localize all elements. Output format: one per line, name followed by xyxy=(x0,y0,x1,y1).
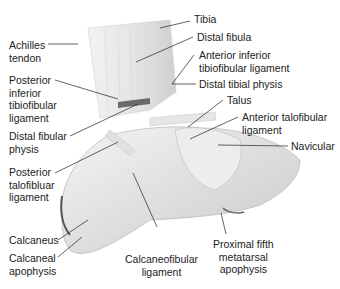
label-line: inferior xyxy=(9,87,57,100)
label-distal-fibula: Distal fibula xyxy=(197,31,251,44)
label-calcaneal-apophysis: Calcaneal apophysis xyxy=(9,252,56,277)
label-line: Anterior inferior xyxy=(199,49,289,62)
label-line: metatarsal xyxy=(213,251,274,264)
label-line: Proximal fifth xyxy=(213,238,274,251)
label-line: ligament xyxy=(9,191,55,204)
label-line: physis xyxy=(9,143,67,156)
label-line: Calcaneal xyxy=(9,252,56,265)
label-talus: Talus xyxy=(227,94,252,107)
label-line: Anterior talofibular xyxy=(242,111,327,124)
label-distal-fibular-physis: Distal fibular physis xyxy=(9,130,67,155)
label-line: Calcaneofibular xyxy=(125,253,198,266)
label-anterior-inferior-tibiofibular-ligament: Anterior inferior tibiofibular ligament xyxy=(199,49,289,74)
label-line: ligament xyxy=(242,124,327,137)
label-proximal-fifth-metatarsal-apophysis: Proximal fifth metatarsal apophysis xyxy=(213,238,274,276)
label-distal-tibial-physis: Distal tibial physis xyxy=(199,78,282,91)
label-calcaneofibular-ligament: Calcaneofibular ligament xyxy=(125,253,198,278)
label-tibia: Tibia xyxy=(194,13,216,26)
label-line: ligament xyxy=(9,112,57,125)
label-line: talofibluar xyxy=(9,179,55,192)
label-line: apophysis xyxy=(213,263,274,276)
label-anterior-talofibular-ligament: Anterior talofibular ligament xyxy=(242,111,327,136)
label-posterior-inferior-tibiofibular-ligament: Posterior inferior tibiofibular ligament xyxy=(9,74,57,124)
label-achilles-tendon: Achilles tendon xyxy=(9,39,45,64)
label-line: tibiofibular xyxy=(9,99,57,112)
label-line: Posterior xyxy=(9,74,57,87)
label-calcaneus: Calcaneus xyxy=(9,234,59,247)
label-line: tendon xyxy=(9,52,45,65)
label-line: ligament xyxy=(125,266,198,279)
label-line: Distal fibular xyxy=(9,130,67,143)
label-line: Achilles xyxy=(9,39,45,52)
label-posterior-talofibular-ligament: Posterior talofibluar ligament xyxy=(9,166,55,204)
label-line: Posterior xyxy=(9,166,55,179)
ankle-diagram: Tibia Distal fibula Anterior inferior ti… xyxy=(0,0,340,289)
label-line: apophysis xyxy=(9,265,56,278)
label-navicular: Navicular xyxy=(291,140,335,153)
label-line: tibiofibular ligament xyxy=(199,62,289,75)
